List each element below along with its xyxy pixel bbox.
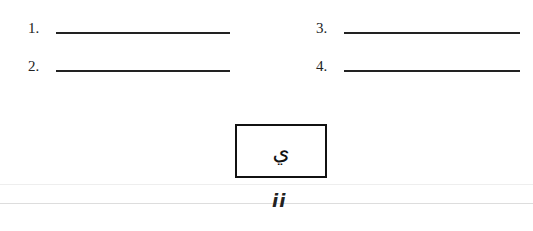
answer-row-2: 2. — [28, 54, 230, 74]
answer-number: 4. — [316, 59, 336, 74]
faint-rule-lower — [0, 203, 533, 204]
answer-row-4: 4. — [316, 54, 520, 74]
answer-row-3: 3. — [316, 16, 520, 36]
answer-row-1: 1. — [28, 16, 230, 36]
answer-blank-line — [56, 32, 230, 34]
arabic-letter: ي — [272, 140, 289, 165]
arabic-letter-box: ي — [235, 124, 327, 178]
answer-blank-line — [344, 32, 520, 34]
answer-blank-line — [344, 70, 520, 72]
answer-number: 2. — [28, 59, 48, 74]
page-number: ii — [272, 190, 286, 211]
answer-blank-line — [56, 70, 230, 72]
answer-number: 1. — [28, 21, 48, 36]
faint-rule-upper — [0, 184, 533, 185]
answer-number: 3. — [316, 21, 336, 36]
